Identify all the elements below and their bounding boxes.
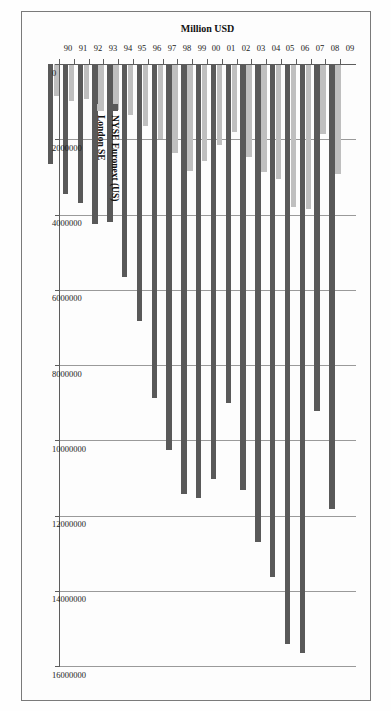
dark-gray-swatch-icon	[111, 104, 118, 111]
bar-nyse-euronext-us-09	[329, 64, 334, 509]
bar-nyse-euronext-us-01	[210, 64, 215, 479]
category-axis-tick	[251, 59, 252, 64]
category-axis-tick	[118, 59, 119, 64]
value-axis-title: Million USD	[60, 22, 356, 36]
bar-nyse-euronext-us-92	[77, 64, 82, 203]
rotated-chart-container: Million USD NYSE Euronext (US) London SE…	[21, 11, 371, 701]
bar-nyse-euronext-us-04	[255, 64, 260, 542]
bar-london-se-05	[275, 64, 280, 179]
bar-london-se-04	[261, 64, 266, 172]
value-axis-tick	[55, 515, 60, 516]
bar-nyse-euronext-us-96	[136, 64, 141, 321]
bar-nyse-euronext-us-07	[299, 64, 304, 653]
category-axis-tick	[207, 59, 208, 64]
bar-london-se-09	[335, 64, 340, 174]
bar-london-se-95	[127, 64, 132, 115]
gridline	[60, 289, 356, 290]
gridline	[60, 515, 356, 516]
bar-london-se-01	[216, 64, 221, 145]
bar-london-se-06	[290, 64, 295, 207]
category-axis-tick	[103, 59, 104, 64]
category-axis-tick	[311, 59, 312, 64]
bar-nyse-euronext-us-02	[225, 64, 230, 403]
category-axis-tick	[163, 59, 164, 64]
bar-nyse-euronext-us-03	[240, 64, 245, 490]
bar-nyse-euronext-us-05	[270, 64, 275, 577]
value-axis-tick	[55, 214, 60, 215]
bar-london-se-98	[172, 64, 177, 153]
bar-nyse-euronext-us-95	[122, 64, 127, 277]
category-axis-label: 09	[339, 43, 359, 53]
category-axis-tick	[74, 59, 75, 64]
category-axis-tick	[59, 59, 60, 64]
value-axis-tick-label: 6000000	[52, 293, 82, 303]
value-axis-tick-label: 8000000	[52, 368, 82, 378]
bar-nyse-euronext-us-00	[196, 64, 201, 498]
gridline	[60, 214, 356, 215]
value-axis-tick	[55, 440, 60, 441]
legend-item-london: London SE	[96, 104, 106, 201]
value-axis-tick	[55, 590, 60, 591]
bar-london-se-97	[157, 64, 162, 139]
gridline	[60, 365, 356, 366]
bar-london-se-92	[83, 64, 88, 99]
gridline	[60, 440, 356, 441]
legend-label-london: London SE	[96, 115, 106, 161]
value-axis-tick-label: 12000000	[52, 519, 86, 529]
chart-frame: Million USD NYSE Euronext (US) London SE…	[21, 11, 371, 701]
scanned-page: Million USD NYSE Euronext (US) London SE…	[0, 0, 391, 711]
bar-london-se-96	[142, 64, 147, 126]
chart-legend: NYSE Euronext (US) London SE	[96, 104, 120, 201]
bar-london-se-94	[113, 64, 118, 110]
value-axis-tick	[55, 666, 60, 667]
value-axis-tick	[55, 365, 60, 366]
value-axis-tick-label: 14000000	[52, 594, 86, 604]
value-axis-tick-label: 2000000	[52, 142, 82, 152]
bar-nyse-euronext-us-98	[166, 64, 171, 450]
bar-nyse-euronext-us-99	[181, 64, 186, 494]
bar-london-se-03	[246, 64, 251, 157]
bar-nyse-euronext-us-06	[284, 64, 289, 644]
bar-london-se-93	[98, 64, 103, 107]
category-axis-tick	[325, 59, 326, 64]
category-axis-tick	[133, 59, 134, 64]
category-axis-tick	[192, 59, 193, 64]
bar-london-se-07	[305, 64, 310, 209]
light-gray-swatch-icon	[97, 104, 104, 111]
category-axis-tick	[281, 59, 282, 64]
category-axis-tick	[266, 59, 267, 64]
value-axis-tick	[55, 289, 60, 290]
bar-london-se-99	[187, 64, 192, 171]
value-axis-tick-label: 16000000	[52, 669, 86, 679]
gridline	[60, 590, 356, 591]
bar-london-se-91	[68, 64, 73, 101]
value-axis-tick-label: 10000000	[52, 443, 86, 453]
bar-london-se-08	[320, 64, 325, 134]
category-axis-tick	[89, 59, 90, 64]
bar-london-se-00	[201, 64, 206, 161]
bar-nyse-euronext-us-97	[151, 64, 156, 398]
legend-label-nyse: NYSE Euronext (US)	[110, 115, 120, 201]
value-axis-tick-label: 4000000	[52, 218, 82, 228]
category-axis-tick	[177, 59, 178, 64]
category-axis-tick	[340, 59, 341, 64]
category-axis-tick	[222, 59, 223, 64]
legend-item-nyse: NYSE Euronext (US)	[110, 104, 120, 201]
category-axis-tick	[237, 59, 238, 64]
bar-london-se-02	[231, 64, 236, 132]
value-axis-title-text: Million USD	[181, 23, 235, 34]
gridline	[60, 666, 356, 667]
bar-nyse-euronext-us-08	[314, 64, 319, 411]
category-axis-tick	[296, 59, 297, 64]
value-axis-tick	[55, 139, 60, 140]
bar-nyse-euronext-us-91	[62, 64, 67, 194]
value-axis-tick-label: 0	[52, 67, 56, 77]
category-axis-tick	[148, 59, 149, 64]
